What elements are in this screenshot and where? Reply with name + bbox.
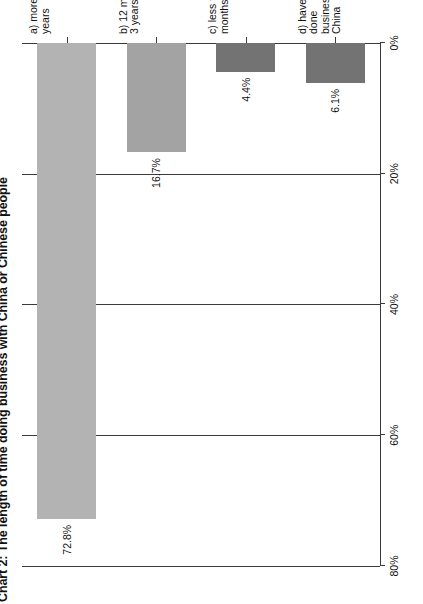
bar-value-label: 16.7% [150,158,162,188]
value-tick-40 [380,304,385,305]
category-label: b) 12 months to 3 years [118,0,141,34]
value-tick-label: 20% [388,163,400,184]
category-label: a) more than 3 years [28,0,51,34]
value-tick-label: 40% [388,294,400,315]
gridline-80 [22,566,380,567]
chart-figure: Chart 2: The length of time doing busine… [0,0,423,604]
chart-title: Chart 2: The length of time doing busine… [0,2,10,602]
value-tick-20 [380,173,385,174]
bar [37,43,96,519]
value-tick-80 [380,565,385,566]
bar [216,43,275,72]
bar-value-label: 6.1% [329,89,341,113]
category-label: c) less than 12 months [207,0,230,34]
value-tick-label: 80% [388,555,400,576]
bar-value-label: 4.4% [240,78,252,102]
value-tick-label: 60% [388,425,400,446]
rotated-figure-wrapper: Chart 2: The length of time doing busine… [0,0,423,604]
value-tick-label: 0% [388,35,400,50]
value-tick-0 [380,42,385,43]
plot-area: 72.8%16.7%4.4%6.1% [22,43,380,566]
bar [127,43,186,152]
bar-value-label: 72.8% [61,525,73,555]
value-tick-60 [380,434,385,435]
bar [306,43,365,83]
category-label: d) have never done business with China [297,0,343,34]
